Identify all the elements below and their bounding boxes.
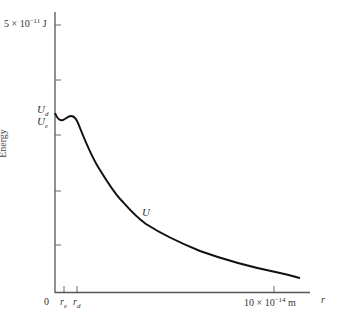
x-ticks <box>64 286 274 292</box>
x-axis-title: r <box>321 294 325 305</box>
y-axis-title: Energy <box>0 129 8 158</box>
energy-curve-u <box>55 113 300 278</box>
x-tick-label-re: re <box>60 296 67 310</box>
y-tick-label-top: 5 × 10−11 J <box>4 17 47 29</box>
y-label-ue: Ue <box>37 115 48 130</box>
curve-label-u: U <box>142 206 150 218</box>
y-ticks <box>55 25 61 245</box>
x-tick-label-right: 10 × 10−14 m <box>244 296 296 308</box>
x-tick-label-rd: rd <box>73 296 80 310</box>
x-tick-label-zero: 0 <box>44 296 49 307</box>
energy-chart <box>0 0 343 328</box>
